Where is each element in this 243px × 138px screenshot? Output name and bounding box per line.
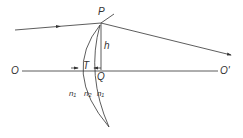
label-t: T [83,60,89,71]
label-p: P [98,6,105,17]
label-q: Q [97,71,105,82]
label-n1-left: n₁ [69,89,76,98]
incoming-ray-cont [60,23,101,26]
label-h: h [104,40,110,51]
lens-diagram [0,0,243,138]
outgoing-ray [101,23,231,55]
label-n1-right: n₁ [97,89,104,98]
label-o: O [11,65,19,76]
incoming-ray [15,26,60,30]
label-o-prime: O' [220,65,230,76]
label-n2: n₂ [84,89,92,98]
